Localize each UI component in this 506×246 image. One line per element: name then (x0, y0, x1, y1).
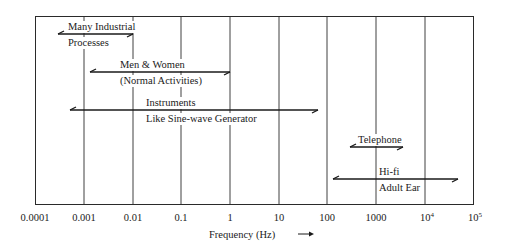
x-tick-0.0001: 0.0001 (21, 212, 50, 224)
x-tick-0.001: 0.001 (72, 212, 96, 224)
hifi-label-line2: Adult Ear (378, 182, 421, 194)
frequency-range-diagram: Many Industrial Processes Men & Women (N… (0, 0, 506, 246)
x-tick-0.01: 0.01 (124, 212, 142, 224)
x-tick-10: 10 (274, 212, 285, 224)
x-tick-1: 1 (227, 212, 232, 224)
x-tick-100: 100 (319, 212, 335, 224)
people-label-line2: (Normal Activities) (119, 75, 203, 87)
x-tick-10e4: 104 (420, 212, 434, 224)
x-tick-1000: 1000 (366, 212, 387, 224)
instruments-label-line2: Like Sine-wave Generator (145, 113, 258, 125)
industrial-label-line1: Many Industrial (67, 21, 136, 33)
x-tick-10e5: 105 (468, 212, 482, 224)
x-tick-0.1: 0.1 (174, 212, 187, 224)
instruments-label-line1: Instruments (145, 97, 197, 109)
industrial-label-line2: Processes (67, 37, 110, 49)
x-axis-label: Frequency (Hz) (209, 229, 275, 241)
telephone-label: Telephone (357, 134, 403, 146)
x-axis-arrow-icon (298, 232, 314, 237)
people-label-line1: Men & Women (119, 59, 186, 71)
hifi-label-line1: Hi-fi (378, 166, 400, 178)
